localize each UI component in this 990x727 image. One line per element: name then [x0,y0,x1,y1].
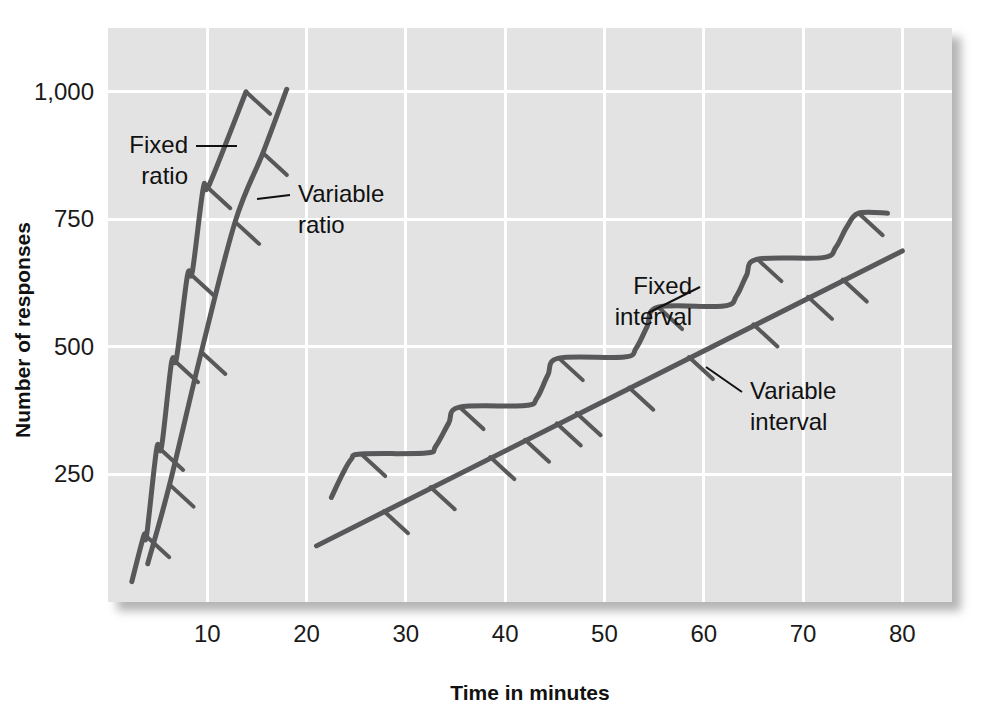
annotation-variable-interval-line1: Variable [750,377,836,404]
x-tick-label: 10 [194,620,221,647]
x-axis-tick-labels: 1020304050607080 [194,620,916,647]
x-tick-label: 60 [690,620,717,647]
y-tick-label: 500 [54,333,94,360]
figure-container: 2505007501,000 1020304050607080 Fixedrat… [0,0,990,727]
y-axis-tick-labels: 2505007501,000 [34,78,94,488]
annotation-variable-interval-line2: interval [750,408,827,435]
annotation-fixed-interval-line2: interval [615,303,692,330]
x-tick-label: 70 [790,620,817,647]
annotation-fixed-ratio-line2: ratio [141,162,188,189]
annotation-variable-ratio-line2: ratio [298,211,345,238]
x-tick-label: 30 [393,620,420,647]
scatter-line-chart: 2505007501,000 1020304050607080 Fixedrat… [0,0,990,727]
y-tick-label: 1,000 [34,78,94,105]
x-tick-label: 40 [492,620,519,647]
x-axis-title: Time in minutes [450,681,609,704]
annotation-variable-ratio-line1: Variable [298,180,384,207]
x-tick-label: 20 [293,620,320,647]
y-tick-label: 750 [54,205,94,232]
annotation-fixed-ratio-line1: Fixed [129,131,188,158]
annotation-fixed-interval-line1: Fixed [633,272,692,299]
x-tick-label: 50 [591,620,618,647]
y-tick-label: 250 [54,460,94,487]
y-axis-title: Number of responses [11,222,34,438]
x-tick-label: 80 [889,620,916,647]
